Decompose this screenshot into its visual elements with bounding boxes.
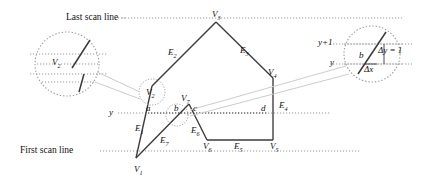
edge-e2 <box>152 22 216 86</box>
y-label-right-detail: y <box>330 58 334 67</box>
edge-label-e5: E5 <box>234 142 243 153</box>
intersection-label-d: d <box>261 104 266 113</box>
right-detail-delta-x-label: Δx <box>364 65 373 74</box>
last-scan-line-label: Last scan line <box>66 13 118 23</box>
first-scan-line-label: First scan line <box>20 146 73 156</box>
edge-e7 <box>136 104 189 158</box>
vertex-label-v6: V6 <box>203 142 212 153</box>
scanline-group <box>30 18 412 151</box>
edge-label-e7: E7 <box>160 136 169 147</box>
right-detail-delta-y-label: Δy = 1 <box>378 46 402 55</box>
vertex-label-v2: V2 <box>146 88 155 99</box>
edge-label-e3: E3 <box>240 46 249 57</box>
y-axis-label: y <box>109 108 113 117</box>
intersection-label-a: a <box>146 104 151 113</box>
y-plus-one-label: y+1 <box>318 38 333 47</box>
right-detail-point-label: b <box>359 51 364 60</box>
vertex-label-v1: V1 <box>134 165 143 176</box>
left-detail-leader-2 <box>95 82 140 99</box>
scanline-polygon-figure: Last scan line First scan line y y+1 y V… <box>0 0 422 178</box>
vertex-label-v7: V7 <box>181 94 190 105</box>
edge-label-e2: E2 <box>168 48 177 59</box>
left-detail-callout <box>35 32 140 99</box>
intersection-label-c: c <box>193 104 197 113</box>
edge-label-e1: E1 <box>135 124 144 135</box>
edge-label-e6: E6 <box>191 126 200 137</box>
intersection-label-b: b <box>174 104 179 113</box>
right-detail-leader-2 <box>190 74 349 116</box>
vertex-label-v5: V5 <box>270 142 279 153</box>
polygon-outline <box>136 22 273 158</box>
edge-label-e4: E4 <box>279 101 288 112</box>
vertex-label-v3: V3 <box>212 10 221 21</box>
vertex-label-v4: V4 <box>268 68 277 79</box>
left-detail-edge-lower <box>79 74 84 92</box>
left-detail-vertex-label: V2 <box>52 58 61 69</box>
left-detail-leader-1 <box>97 72 140 92</box>
